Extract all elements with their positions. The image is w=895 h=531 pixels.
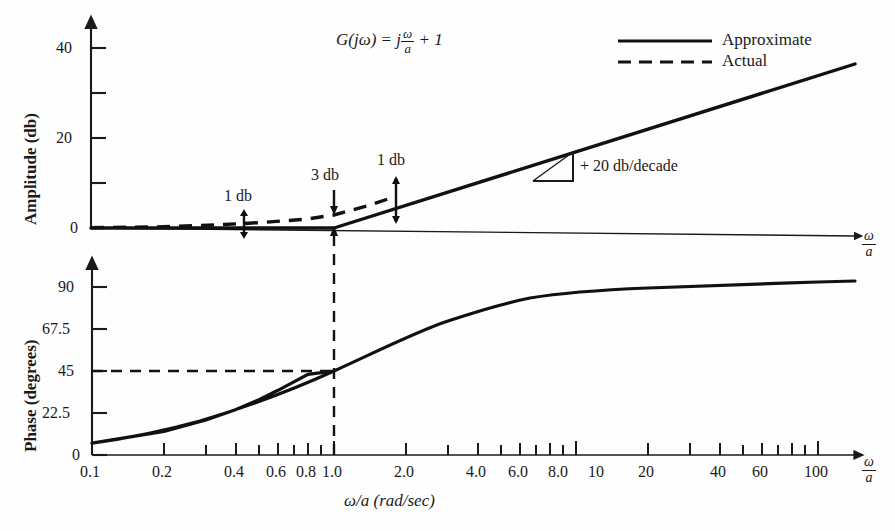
amplitude-axis-title: Amplitude (db) [22, 113, 39, 225]
phase-ytick-0: 0 [72, 447, 80, 463]
xtick-2p0: 2.0 [394, 464, 414, 480]
xtick-1p0: 1.0 [322, 464, 342, 480]
amplitude-xaxis-end-den: a [862, 245, 876, 260]
equation-g: G [336, 30, 348, 49]
equation-fraction-numerator: ω [401, 27, 414, 42]
annotation-3db: 3 db [311, 167, 339, 183]
phase-curve [92, 281, 855, 443]
xtick-0p1: 0.1 [80, 464, 100, 480]
amplitude-ytick-20: 20 [56, 130, 72, 146]
xtick-20: 20 [638, 464, 654, 480]
xtick-4p0: 4.0 [466, 464, 486, 480]
xtick-6p0: 6.0 [508, 464, 528, 480]
phase-ytick-67p5: 67.5 [42, 321, 70, 337]
xtick-40: 40 [710, 464, 726, 480]
equation-title: G(jω) = jωa + 1 [336, 27, 443, 55]
annotation-1db-left: 1 db [224, 188, 252, 204]
phase-y-axis [92, 268, 107, 455]
annotation-arrow-3db [330, 190, 338, 215]
equation-fraction-denominator: a [401, 42, 414, 56]
annotation-arrow-1db-right [392, 176, 400, 224]
equation-jw: (jω) [348, 30, 376, 49]
legend-label-actual: Actual [722, 52, 767, 69]
phase-axis-title: Phase (degrees) [22, 339, 39, 452]
phase-xaxis-end-num: ω [862, 455, 876, 471]
xtick-10: 10 [588, 464, 604, 480]
phase-ytick-45: 45 [58, 363, 74, 379]
equation-equals: = [381, 30, 392, 49]
phase-ytick-22p5: 22.5 [42, 405, 70, 421]
plot-canvas [0, 0, 895, 531]
amplitude-ytick-0: 0 [70, 220, 78, 236]
amplitude-xaxis-end-num: ω [862, 229, 876, 245]
xtick-0p8: 0.8 [296, 464, 316, 480]
xaxis-caption-text: ω/a (rad/sec) [344, 491, 435, 510]
equation-fraction: ωa [401, 27, 414, 55]
amplitude-approximate-curve [91, 64, 855, 228]
equation-plus-one: + 1 [419, 30, 443, 49]
xtick-0p4: 0.4 [224, 464, 244, 480]
phase-ytick-90: 90 [58, 279, 74, 295]
xtick-0p6: 0.6 [266, 464, 286, 480]
xaxis-caption: ω/a (rad/sec) [344, 492, 435, 509]
slope-triangle [533, 152, 573, 181]
amplitude-y-axis [91, 27, 106, 228]
amplitude-ytick-40: 40 [56, 40, 72, 56]
xtick-100: 100 [804, 464, 828, 480]
xtick-8p0: 8.0 [548, 464, 568, 480]
phase-x-ticks [92, 441, 818, 455]
annotation-slope: + 20 db/decade [580, 158, 678, 174]
xtick-0p2: 0.2 [152, 464, 172, 480]
legend-label-approximate: Approximate [722, 31, 812, 48]
phase-xaxis-end-den: a [862, 471, 876, 486]
annotation-1db-right: 1 db [377, 152, 405, 168]
phase-xaxis-end-label: ωa [862, 455, 876, 485]
bode-plot-figure: G(jω) = jωa + 1 Approximate Actual Ampli… [0, 0, 895, 531]
amplitude-xaxis-end-label: ωa [862, 229, 876, 259]
xtick-60: 60 [752, 464, 768, 480]
